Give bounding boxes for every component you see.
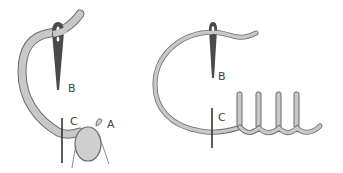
right-completed-stitches [237, 92, 320, 133]
stitch-diagram: B C A [0, 0, 343, 173]
diagram-stage: B C A [0, 0, 343, 173]
right-label-b: B [218, 70, 226, 83]
right-label-c: C [218, 111, 226, 124]
left-label-a: A [107, 118, 115, 131]
left-thread-through-eye [53, 30, 66, 34]
right-needle [209, 22, 217, 78]
left-label-c: C [70, 115, 78, 128]
left-panel: B C A [22, 14, 115, 168]
left-label-b: B [68, 82, 76, 95]
right-thread-through-eye [208, 32, 219, 33]
right-panel: B C [155, 22, 320, 148]
